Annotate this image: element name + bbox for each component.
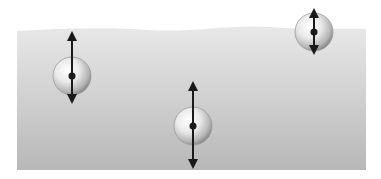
buoyancy-diagram (0, 0, 381, 179)
center-of-mass-dot (190, 123, 197, 130)
center-of-mass-dot (311, 29, 318, 36)
center-of-mass-dot (69, 73, 76, 80)
diagram-canvas (0, 0, 381, 179)
ball-above-surface-right (295, 13, 333, 51)
